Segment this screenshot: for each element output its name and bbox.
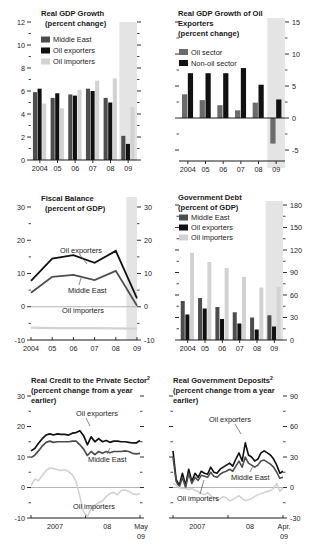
bar-oil-exporters-2004	[185, 315, 189, 341]
bar-oil-sector-2004	[182, 94, 187, 118]
panel-3-canvas: -10-100010102020303020040506070809Fiscal…	[0, 185, 156, 370]
bar-middle-east-06	[68, 94, 72, 160]
svg-text:Real GDP Growth of Oil: Real GDP Growth of Oil	[178, 9, 263, 18]
panel-real-gdp-growth: 02468101220040506070809Real GDP Growth(p…	[0, 0, 156, 185]
svg-text:Middle East: Middle East	[53, 35, 92, 44]
svg-text:10: 10	[17, 41, 25, 50]
svg-text:07: 07	[236, 344, 244, 353]
bar-oil-sector-05	[200, 100, 205, 118]
bar-oil-exporters-05	[55, 93, 59, 160]
panel-fiscal-balance: -10-100010102020303020040506070809Fiscal…	[0, 185, 156, 370]
bar-oil-importers-06	[225, 268, 229, 340]
legend-swatch	[41, 59, 50, 65]
svg-text:05: 05	[202, 165, 210, 174]
svg-text:6: 6	[21, 87, 25, 96]
bar-oil-exporters-06	[73, 96, 77, 160]
svg-text:0: 0	[21, 483, 25, 492]
svg-text:05: 05	[48, 344, 56, 353]
bar-non-oil-sector-09	[276, 99, 281, 118]
svg-text:10: 10	[144, 269, 152, 278]
svg-text:07: 07	[89, 164, 97, 173]
svg-text:5: 5	[292, 82, 296, 91]
svg-text:180: 180	[290, 201, 302, 210]
bar-middle-east-05	[51, 98, 55, 160]
svg-text:Fiscal Balance: Fiscal Balance	[41, 194, 94, 203]
svg-text:Oil exporters: Oil exporters	[60, 246, 102, 255]
svg-text:05: 05	[201, 344, 209, 353]
panel-real-government-deposits: -300306090200708Apr.09Real Government De…	[157, 370, 313, 555]
svg-text:Oil importers: Oil importers	[191, 233, 233, 242]
svg-text:20: 20	[144, 236, 152, 245]
bar-oil-exporters-09	[126, 144, 130, 160]
svg-text:15: 15	[292, 18, 300, 27]
svg-text:(percent of GDP): (percent of GDP)	[178, 203, 239, 212]
svg-text:06: 06	[218, 344, 226, 353]
svg-text:2004: 2004	[180, 344, 196, 353]
bar-middle-east-09	[121, 136, 125, 160]
bar-oil-importers-06	[77, 90, 81, 160]
svg-text:2007: 2007	[47, 522, 63, 531]
panel-government-debt: 030609012015018020040506070809Government…	[157, 185, 313, 370]
svg-text:08: 08	[103, 522, 111, 531]
svg-text:Exporters: Exporters	[178, 19, 213, 28]
bar-oil-exporters-2004	[38, 89, 42, 160]
line-oil-importers	[31, 328, 137, 329]
bar-middle-east-09	[267, 315, 271, 340]
bar-oil-sector-06	[217, 105, 222, 118]
svg-text:120: 120	[290, 246, 302, 255]
svg-text:Apr.: Apr.	[278, 522, 291, 531]
svg-text:Oil sector: Oil sector	[191, 48, 223, 57]
svg-text:Oil exporters: Oil exporters	[191, 223, 233, 232]
svg-text:Middle East: Middle East	[191, 213, 230, 222]
bar-middle-east-08	[250, 318, 254, 341]
svg-text:earlier): earlier)	[31, 396, 57, 405]
svg-text:Oil importers: Oil importers	[177, 494, 219, 503]
svg-text:10: 10	[292, 50, 300, 59]
bar-oil-exporters-06	[220, 319, 224, 340]
legend-swatch	[179, 235, 188, 241]
svg-text:09: 09	[124, 164, 132, 173]
panel-real-gdp-growth-oil-exporters: -505101520040506070809Real GDP Growth of…	[157, 0, 313, 185]
svg-text:07: 07	[237, 165, 245, 174]
legend-swatch	[41, 48, 50, 54]
svg-text:30: 30	[290, 453, 298, 462]
legend-swatch	[179, 60, 188, 66]
svg-text:06: 06	[219, 165, 227, 174]
bar-oil-sector-08	[253, 103, 258, 118]
multi-panel-figure: 02468101220040506070809Real GDP Growth(p…	[0, 0, 313, 556]
bar-oil-importers-2004	[190, 253, 194, 340]
svg-text:60: 60	[290, 291, 298, 300]
svg-text:-10: -10	[144, 336, 154, 345]
line-oil-exporters	[31, 431, 140, 451]
bar-oil-exporters-08	[255, 330, 259, 341]
bar-middle-east-07	[233, 312, 237, 340]
bar-non-oil-sector-07	[241, 68, 246, 118]
svg-text:Real Credit to the Private Sec: Real Credit to the Private Sector2	[31, 375, 150, 385]
svg-text:-5: -5	[292, 146, 298, 155]
bar-middle-east-2004	[33, 92, 37, 160]
bar-oil-importers-07	[95, 81, 99, 160]
svg-text:90: 90	[290, 392, 298, 401]
svg-text:06: 06	[71, 164, 79, 173]
bar-middle-east-06	[215, 307, 219, 340]
bar-middle-east-2004	[181, 301, 185, 340]
svg-text:08: 08	[255, 165, 263, 174]
bar-oil-importers-09	[277, 287, 281, 340]
panel-4-canvas: 030609012015018020040506070809Government…	[157, 185, 313, 370]
bar-oil-importers-09	[130, 107, 134, 160]
svg-text:Middle East: Middle East	[88, 455, 127, 464]
svg-text:30: 30	[17, 203, 25, 212]
svg-text:60: 60	[290, 422, 298, 431]
svg-text:Government Debt: Government Debt	[178, 193, 242, 202]
panel-6-canvas: -300306090200708Apr.09Real Government De…	[157, 370, 313, 556]
svg-text:12: 12	[17, 18, 25, 27]
forecast-band	[126, 197, 137, 340]
svg-text:2004: 2004	[180, 165, 196, 174]
svg-text:Oil exporters: Oil exporters	[209, 415, 251, 424]
svg-text:2004: 2004	[23, 344, 39, 353]
svg-text:Non-oil sector: Non-oil sector	[191, 59, 237, 68]
bar-oil-exporters-05	[203, 309, 207, 341]
svg-text:08: 08	[112, 344, 120, 353]
bar-middle-east-05	[198, 298, 202, 340]
svg-text:Oil exporters: Oil exporters	[76, 409, 118, 418]
